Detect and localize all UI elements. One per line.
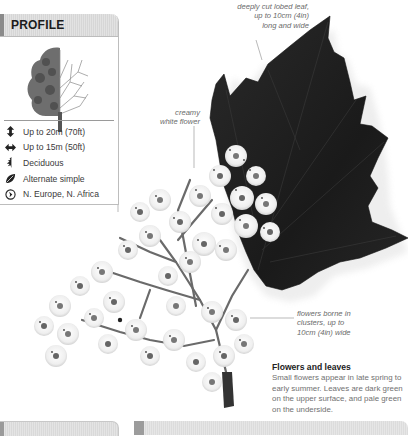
deciduous-leaf-icon: [4, 157, 16, 169]
callout-cluster: flowers borne in clusters, up to 10cm (4…: [297, 309, 387, 337]
callout-leaf-line-3: long and wide: [197, 21, 309, 30]
height-arrow-icon: [4, 126, 16, 138]
caption-body: Small flowers appear in late spring to e…: [272, 373, 408, 415]
fact-leaf-type: Deciduous: [4, 155, 118, 171]
next-panel-header-right: [134, 421, 408, 435]
fact-arrangement: Alternate simple: [4, 171, 118, 187]
profile-header: PROFILE: [0, 14, 118, 37]
leaf-icon: [4, 173, 16, 185]
fact-arrangement-label: Alternate simple: [23, 174, 85, 184]
header-accent-bar: [0, 422, 4, 436]
callout-cluster-line-2: clusters, up to: [297, 318, 387, 327]
callout-flower-line-1: creamy: [150, 108, 200, 117]
header-accent-bar: [0, 14, 4, 36]
fact-spread: Up to 15m (50ft): [4, 140, 118, 156]
callout-leaf-line-2: up to 10cm (4in): [197, 11, 309, 20]
callout-cluster-line-3: 10cm (4in) wide: [297, 328, 387, 337]
profile-facts: Up to 20m (70ft) Up to 15m (50ft) Decidu…: [4, 124, 118, 202]
callout-flower-line-2: white flower: [150, 117, 200, 126]
header-accent-bar: [134, 421, 144, 435]
globe-location-icon: [4, 188, 16, 200]
fact-leaf-type-label: Deciduous: [23, 158, 64, 168]
fact-distribution: N. Europe, N. Africa: [4, 186, 118, 202]
callout-flower: creamy white flower: [150, 108, 200, 127]
fact-distribution-label: N. Europe, N. Africa: [23, 189, 99, 199]
fact-spread-label: Up to 15m (50ft): [23, 142, 85, 152]
caption-title: Flowers and leaves: [272, 362, 408, 372]
profile-title: PROFILE: [11, 18, 64, 32]
profile-panel: PROFILE Up to 20m (70ft): [0, 14, 119, 205]
tree-ground-line: [4, 120, 114, 121]
callout-leaf: deeply cut lobed leaf, up to 10cm (4in) …: [197, 2, 309, 30]
fact-height-label: Up to 20m (70ft): [23, 127, 85, 137]
fact-height: Up to 20m (70ft): [4, 124, 118, 140]
next-panel-header-left: [0, 421, 119, 436]
spread-arrow-icon: [4, 141, 16, 153]
caption: Flowers and leaves Small flowers appear …: [272, 362, 408, 415]
callout-leaf-line-1: deeply cut lobed leaf,: [197, 2, 309, 11]
callout-cluster-line-1: flowers borne in: [297, 309, 387, 318]
